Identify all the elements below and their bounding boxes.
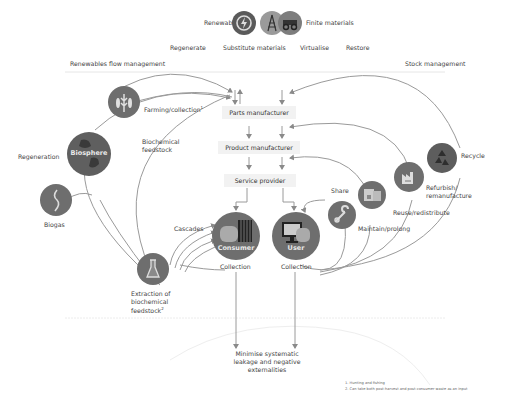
leakage-label: Minimise systematic leakage and negative… xyxy=(222,350,312,373)
regeneration-label: Regeneration xyxy=(18,153,59,161)
share-label: Share xyxy=(331,187,349,195)
cascades-label: Cascades xyxy=(174,225,204,233)
footnote-2: 2. Can take both post-harvest and post-c… xyxy=(345,387,467,392)
wheat-fish-icon xyxy=(108,86,140,118)
section-renewables-flow: Renewables flow management xyxy=(70,60,165,68)
flask-icon xyxy=(137,253,169,285)
service-provider: Service provider xyxy=(224,174,296,187)
biochemical-feedstock-label: Biochemical feedstock xyxy=(142,138,180,154)
consumer-goods-icon xyxy=(212,212,260,260)
refurbish-remanufacture-label: Refurbish/ remanufacture xyxy=(426,184,472,200)
finite-materials-label: Finite materials xyxy=(306,19,354,27)
monitor-icon xyxy=(272,212,320,260)
farming-collection-label: Farming/collection1 xyxy=(144,105,203,114)
mining-truck-icon xyxy=(278,11,302,35)
strategy-substitute: Substitute materials xyxy=(223,44,286,52)
strategy-virtualise: Virtualise xyxy=(300,44,329,52)
renewable-energy-icon xyxy=(232,11,256,35)
reuse-redistribute-label: Reuse/redistribute xyxy=(393,209,450,217)
strategy-regenerate: Regenerate xyxy=(170,44,206,52)
consumer-collection-label: Collection xyxy=(220,263,251,271)
biogas-icon xyxy=(40,184,72,216)
user-node: User xyxy=(272,212,320,260)
wrench-icon xyxy=(328,201,356,229)
product-manufacturer: Product manufacturer xyxy=(218,141,300,154)
user-collection-label: Collection xyxy=(281,263,312,271)
strategy-restore: Restore xyxy=(346,44,369,52)
footnote-1: 1. Hunting and fishing xyxy=(345,381,385,386)
biogas-label: Biogas xyxy=(44,221,65,229)
factory-icon xyxy=(394,162,424,192)
boxes-icon xyxy=(358,181,386,209)
maintain-prolong-label: Maintain/prolong xyxy=(358,225,410,233)
consumer-node: Consumer xyxy=(212,212,260,260)
recycle-icon xyxy=(427,143,457,173)
biosphere-node: Biosphere xyxy=(67,132,111,176)
section-stock-management: Stock management xyxy=(405,60,466,68)
extraction-label: Extraction of biochemical feedstock2 xyxy=(131,290,171,314)
parts-manufacturer: Parts manufacturer xyxy=(222,106,296,119)
recycle-label: Recycle xyxy=(461,152,485,160)
